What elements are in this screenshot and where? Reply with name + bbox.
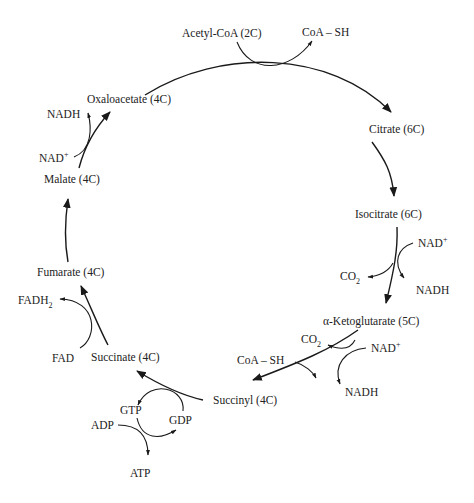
label-alpha-ketoglutarate: α-Ketoglutarate (5C) xyxy=(323,315,420,328)
arrow-fumarate-to-malate xyxy=(65,199,68,262)
label-nadh-isocitrate: NADH xyxy=(416,284,449,296)
label-gdp: GDP xyxy=(169,414,192,426)
label-nad-malate: NAD+ xyxy=(39,150,69,164)
label-gtp: GTP xyxy=(120,404,142,416)
label-fumarate: Fumarate (4C) xyxy=(37,266,105,279)
arrow-coash-in-akg xyxy=(295,362,316,378)
label-coa-sh-akg: CoA – SH xyxy=(237,354,284,366)
arrow-succinyl-to-succinate xyxy=(137,371,203,400)
label-isocitrate: Isocitrate (6C) xyxy=(355,208,422,221)
arrow-citrate-to-isocitrate xyxy=(372,142,394,196)
cofactor-labels: CoA – SH NAD+ CO2 NADH CO2 NAD+ CoA – SH… xyxy=(18,26,449,479)
label-malate: Malate (4C) xyxy=(44,173,100,186)
label-fadh2: FADH2 xyxy=(18,294,52,310)
label-coa-sh-top: CoA – SH xyxy=(302,26,349,38)
label-nad-akg: NAD+ xyxy=(371,340,401,354)
arrow-malate-to-oxaloacetate xyxy=(79,112,110,168)
label-acetyl-coa: Acetyl-CoA (2C) xyxy=(182,27,262,40)
metabolite-labels: Acetyl-CoA (2C) Oxaloacetate (4C) Citrat… xyxy=(37,27,424,407)
label-nadh-akg: NADH xyxy=(345,386,378,398)
cycle-arrows xyxy=(65,62,397,400)
label-succinyl: Succinyl (4C) xyxy=(213,394,277,407)
label-co2-akg: CO2 xyxy=(301,333,321,349)
arrow-fad-to-fadh2 xyxy=(60,299,92,348)
label-nad-isocitrate: NAD+ xyxy=(418,235,448,249)
label-fad: FAD xyxy=(52,352,74,364)
arrow-oxaloacetate-to-citrate xyxy=(145,62,391,112)
label-co2-isocitrate: CO2 xyxy=(340,270,360,286)
arrow-nad-to-nadh-isocitrate xyxy=(398,243,413,278)
arrow-adp-to-atp xyxy=(118,425,148,455)
label-atp: ATP xyxy=(130,467,150,479)
label-adp: ADP xyxy=(91,419,114,431)
arrow-nad-to-nadh-akg xyxy=(338,348,366,384)
label-citrate: Citrate (6C) xyxy=(369,123,424,136)
citric-acid-cycle-diagram: Acetyl-CoA (2C) Oxaloacetate (4C) Citrat… xyxy=(0,0,474,503)
label-nadh-malate: NADH xyxy=(47,108,80,120)
arrow-succinate-to-fumarate xyxy=(81,286,108,345)
label-succinate: Succinate (4C) xyxy=(91,351,160,364)
label-oxaloacetate: Oxaloacetate (4C) xyxy=(87,93,171,106)
arrow-co2-isocitrate xyxy=(368,263,393,277)
arrow-acetylcoa-coash xyxy=(237,41,312,66)
